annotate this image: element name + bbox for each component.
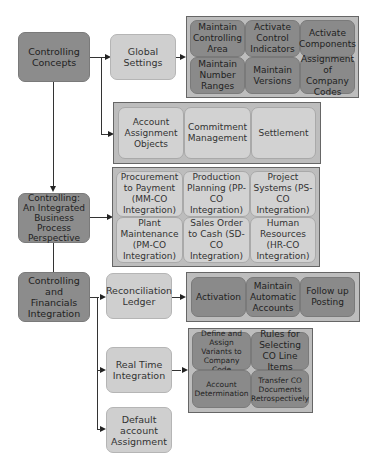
cell-label: Activate Control Indicators [248, 22, 297, 55]
cell-label: Define and Assign Variants to Company Co… [195, 329, 248, 374]
node-label: Global Settings [113, 46, 173, 68]
panel-cell: Rules for Selecting CO Line Items [251, 332, 309, 370]
node-global-settings: Global Settings [110, 34, 176, 80]
panel-cell: Define and Assign Variants to Company Co… [192, 332, 251, 370]
panel-cell: Activate Components [300, 20, 355, 57]
node-label: Default account Assignment [109, 414, 169, 447]
panel-cell: Follow up Posting [300, 277, 355, 317]
cell-label: Sales Order to Cash (SD-CO Integration) [186, 218, 247, 262]
panel-integration: Procurement to Payment (MM-CO Integratio… [112, 167, 320, 267]
node-default-account-assignment: Default account Assignment [106, 407, 172, 453]
panel-cell: Project Systems (PS-CO Integration) [250, 171, 316, 217]
cell-label: Settlement [259, 128, 309, 139]
panel-cell: Account Assignment Objects [118, 107, 184, 159]
node-label: Reconciliation Ledger [106, 285, 172, 307]
connector [97, 370, 101, 371]
cell-label: Follow up Posting [303, 286, 352, 308]
cell-label: Commitment Management [187, 122, 248, 144]
panel-cell: Production Planning (PP-CO Integration) [183, 171, 250, 217]
connector [101, 57, 102, 135]
panel-cell: Maintain Automatic Accounts [246, 277, 300, 317]
panel-cell: Activation [191, 277, 246, 317]
connector [89, 217, 108, 218]
panel-cell: Maintain Controlling Area [190, 20, 245, 57]
cell-label: Transfer CO Documents Retrospectively [251, 376, 309, 403]
connector [97, 429, 101, 430]
panel-cell: Account Determination [192, 370, 251, 408]
cell-label: Production Planning (PP-CO Integration) [186, 172, 247, 216]
panel-concepts: Account Assignment Objects Commitment Ma… [113, 102, 321, 164]
node-label: Real Time Integration [109, 359, 169, 381]
cell-label: Project Systems (PS-CO Integration) [253, 172, 313, 216]
cell-label: Assignment of Company Codes [301, 54, 354, 98]
panel-cell: Sales Order to Cash (SD-CO Integration) [183, 217, 250, 263]
arrow-down-icon [50, 186, 56, 192]
panel-cell: Settlement [251, 107, 316, 159]
cell-label: Plant Maintenance (PM-CO Integration) [119, 218, 180, 262]
panel-cell: Procurement to Payment (MM-CO Integratio… [116, 171, 183, 217]
connector [171, 370, 181, 371]
cell-label: Procurement to Payment (MM-CO Integratio… [119, 172, 180, 216]
panel-cell: Activate Control Indicators [245, 20, 300, 57]
node-real-time-integration: Real Time Integration [106, 347, 172, 393]
panel-cell: Human Resources (HR-CO Integration) [250, 217, 316, 263]
cell-label: Account Determination [195, 380, 249, 398]
connector [53, 82, 54, 188]
cell-label: Human Resources (HR-CO Integration) [253, 218, 313, 262]
panel-reconciliation: Activation Maintain Automatic Accounts F… [186, 272, 360, 322]
panel-cell: Plant Maintenance (PM-CO Integration) [116, 217, 183, 263]
node-reconciliation-ledger: Reconciliation Ledger [106, 273, 172, 319]
node-controlling-financials-integration: Controlling and Financials Integration [18, 272, 90, 322]
node-label: Controlling Concepts [21, 46, 87, 68]
cell-label: Account Assignment Objects [121, 117, 181, 150]
panel-global-settings: Maintain Controlling Area Activate Contr… [186, 16, 359, 98]
cell-label: Activate Components [299, 28, 356, 50]
cell-label: Maintain Number Ranges [193, 59, 242, 92]
cell-label: Maintain Automatic Accounts [249, 281, 297, 314]
cell-label: Maintain Versions [248, 65, 297, 87]
cell-label: Activation [196, 292, 241, 303]
connector [97, 297, 98, 429]
panel-cell: Commitment Management [184, 107, 251, 159]
cell-label: Maintain Controlling Area [193, 22, 242, 55]
panel-cell: Transfer CO Documents Retrospectively [251, 370, 309, 408]
panel-cell: Maintain Number Ranges [190, 57, 245, 94]
node-integrated-business-process: Controlling: An Integrated Business Proc… [18, 193, 90, 243]
panel-real-time: Define and Assign Variants to Company Co… [188, 328, 313, 413]
node-controlling-concepts: Controlling Concepts [18, 32, 90, 82]
panel-cell: Maintain Versions [245, 57, 300, 94]
cell-label: Rules for Selecting CO Line Items [254, 329, 306, 373]
node-label: Controlling: An Integrated Business Proc… [21, 193, 87, 243]
panel-cell: Assignment of Company Codes [300, 57, 355, 94]
node-label: Controlling and Financials Integration [21, 275, 87, 319]
connector [89, 57, 105, 58]
